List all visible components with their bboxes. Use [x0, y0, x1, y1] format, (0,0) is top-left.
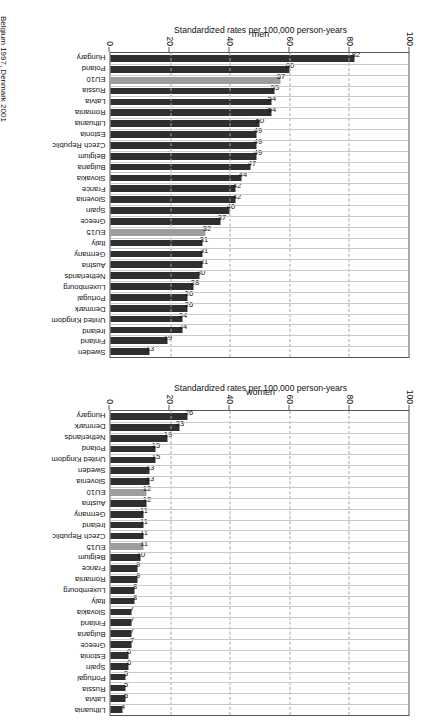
category-label: Italy [13, 596, 107, 607]
category-label: Slovakia [13, 607, 107, 618]
bar: 31 [110, 240, 202, 247]
category-label-text: Finland [80, 619, 105, 627]
category-label-text: Bulgaria [77, 630, 105, 638]
bar: 7 [110, 609, 131, 616]
category-label-text: Netherlands [64, 434, 105, 442]
category-label: Finland [13, 618, 107, 629]
y-tick-label: 0 [104, 399, 114, 404]
bar: 5 [110, 674, 125, 681]
category-separator [110, 530, 408, 531]
category-label: Finland [13, 336, 107, 347]
category-label-text: Lithuania [74, 707, 105, 715]
category-separator [110, 86, 408, 87]
y-tick-label: 40 [224, 395, 234, 404]
bar-cell: 8 [110, 596, 408, 607]
category-label-text: France [81, 565, 105, 573]
category-separator [110, 682, 408, 683]
category-label-text: Slovakia [76, 608, 105, 616]
bar-cell: 57 [110, 75, 408, 86]
bar: 19 [110, 337, 167, 344]
category-label: Czech Republic [13, 530, 107, 541]
category-label-text: Germany [74, 510, 105, 518]
category-label-text: Slovenia [76, 477, 105, 485]
category-label-text: Poland [81, 65, 105, 73]
category-separator [110, 314, 408, 315]
category-label: France [13, 183, 107, 194]
category-label: EU10 [13, 74, 107, 85]
category-label: Portugal [13, 292, 107, 303]
category-separator [110, 476, 408, 477]
category-separator [110, 606, 408, 607]
category-label-text: Denmark [74, 423, 105, 431]
category-separator [110, 596, 408, 597]
category-separator [110, 281, 408, 282]
category-label: Russia [13, 85, 107, 96]
category-separator [110, 172, 408, 173]
bar-value-label: 26 [184, 409, 192, 417]
bar: 11 [110, 522, 143, 529]
category-separator [110, 118, 408, 119]
category-label: Spain [13, 661, 107, 672]
category-label: Bulgaria [13, 161, 107, 172]
category-separator [110, 205, 408, 206]
bar-cell: 12 [110, 487, 408, 498]
category-label-text: EU10 [86, 76, 105, 84]
category-separator [110, 292, 408, 293]
category-label: Italy [13, 238, 107, 249]
category-separator [110, 552, 408, 553]
category-separator [110, 509, 408, 510]
category-separator [110, 107, 408, 108]
category-label: EU15 [13, 227, 107, 238]
category-label-text: Spain [86, 663, 105, 671]
bar-cell: 15 [110, 454, 408, 465]
bar: 31 [110, 251, 202, 258]
category-label-text: Romania [75, 108, 105, 116]
category-label-text: Estonia [80, 652, 105, 660]
category-label: Germany [13, 249, 107, 260]
category-label: Sweden [13, 465, 107, 476]
category-label: Denmark [13, 303, 107, 314]
bar-cell: 6 [110, 650, 408, 661]
category-label-text: Spain [86, 207, 105, 215]
bar: 13 [110, 467, 149, 474]
category-label-text: Luxembourg [63, 283, 105, 291]
category-label-text: Luxembourg [63, 586, 105, 594]
category-separator [110, 238, 408, 239]
bar-cell: 54 [110, 96, 408, 107]
bar-cell: 23 [110, 422, 408, 433]
category-label-text: Austria [81, 499, 105, 507]
bar: 54 [110, 99, 271, 106]
category-label-text: Italy [91, 239, 105, 247]
bar: 11 [110, 511, 143, 518]
category-separator [110, 617, 408, 618]
category-label: Lithuania [13, 118, 107, 129]
category-label-text: Belgium [78, 554, 105, 562]
bar: 26 [110, 294, 187, 301]
category-label: Czech Republic [13, 139, 107, 150]
category-label: Spain [13, 205, 107, 216]
category-separator [110, 303, 408, 304]
chart-women: women 020406080100 262319151513131212111… [10, 366, 415, 718]
category-label-text: United Kingdom [51, 455, 105, 463]
bar-cell: 28 [110, 281, 408, 292]
category-label: Lithuania [13, 705, 107, 716]
category-label: Greece [13, 216, 107, 227]
category-separator [110, 650, 408, 651]
bar-cell: 12 [110, 498, 408, 509]
category-label: Luxembourg [13, 585, 107, 596]
category-label: Romania [13, 107, 107, 118]
bar-cell: 11 [110, 541, 408, 552]
bar: 49 [110, 153, 256, 160]
category-label: Ireland [13, 325, 107, 336]
bar-cell: 37 [110, 216, 408, 227]
category-separator [110, 487, 408, 488]
category-separator [110, 346, 408, 347]
category-label: Ireland [13, 519, 107, 530]
category-separator [110, 574, 408, 575]
category-label: Germany [13, 508, 107, 519]
bar-cell: 42 [110, 183, 408, 194]
category-label: Poland [13, 443, 107, 454]
y-tick-label: 20 [164, 37, 174, 46]
category-label-text: Poland [81, 444, 105, 452]
bar: 9 [110, 565, 137, 572]
